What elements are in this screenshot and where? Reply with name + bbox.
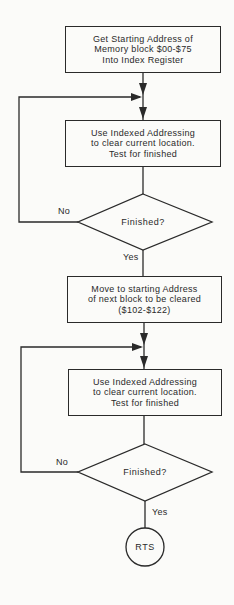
decision-2-no-label: No [56,457,68,467]
decision-1-yes-label: Yes [123,252,139,262]
arrow-down-icon [140,333,148,345]
decision-1-no-label: No [58,206,70,216]
step-init: Get Starting Address of Memory block $00… [65,26,221,73]
terminator-rts: RTS [135,542,154,552]
arrow-down-icon [140,356,148,368]
arrow-down-icon [139,83,147,95]
step-clear-1: Use Indexed Addressing to clear current … [65,120,221,167]
arrow-right-icon [132,343,143,351]
decision-2-text: Finished? [123,467,167,477]
decision-2-yes-label: Yes [152,507,168,517]
step-clear-2: Use Indexed Addressing to clear current … [68,369,222,416]
step-move: Move to starting Address of next block t… [67,276,222,323]
decision-1-text: Finished? [121,217,165,227]
arrow-right-icon [131,93,142,101]
arrow-down-icon [139,107,147,119]
